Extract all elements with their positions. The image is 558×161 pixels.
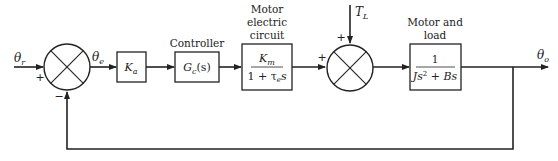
motor-electric-block: Km 1 + τes	[242, 44, 292, 90]
motor-electric-caption-2: electric	[247, 16, 287, 28]
controller-block: Gc(s)	[175, 52, 219, 82]
block-diagram: θr + − θe Ka Controller Gc(s) Motor elec…	[0, 0, 558, 161]
controller-caption: Controller	[170, 37, 226, 49]
sum2-left-plus-sign: +	[317, 51, 326, 64]
motor-electric-caption-3: circuit	[250, 29, 285, 41]
summing-junction-2	[327, 45, 373, 91]
sum1-plus-sign: +	[35, 71, 44, 84]
theta-e-label: θe	[92, 50, 104, 66]
svg-text:Js2 + Bs: Js2 + Bs	[411, 70, 458, 83]
amplifier-block: Ka	[117, 52, 146, 82]
summing-junction-1	[44, 44, 90, 90]
tl-label: TL	[355, 5, 368, 21]
svg-text:Gc(s): Gc(s)	[183, 61, 211, 76]
theta-o-label: θo	[537, 48, 549, 64]
sum2-top-plus-sign: +	[336, 31, 345, 44]
motor-load-caption-2: load	[424, 29, 447, 41]
svg-text:1: 1	[432, 53, 439, 65]
svg-text:1 + τes: 1 + τes	[247, 70, 286, 84]
motor-load-caption-1: Motor and	[407, 16, 463, 28]
theta-r-label: θr	[14, 51, 26, 67]
motor-load-block: 1 Js2 + Bs	[410, 44, 461, 90]
sum1-minus-sign: −	[54, 90, 63, 103]
motor-electric-caption-1: Motor	[251, 3, 285, 15]
